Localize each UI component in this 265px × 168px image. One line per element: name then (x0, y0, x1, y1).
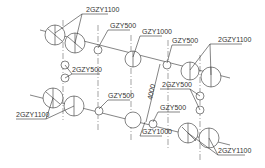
label-2gzy1100: 2GZY1100 (218, 36, 251, 43)
label-2gzy1100: 2GZY1100 (86, 6, 119, 13)
dimension-label: 4000 (146, 83, 156, 100)
label-gzy500: GZY500 (160, 104, 186, 111)
support-layout-drawing: 2GZY1100 GZY500 2GZY500 GZY1000 GZY500 2… (0, 0, 265, 168)
label-gzy1000: GZY1000 (142, 28, 172, 35)
label-2gzy500: 2GZY500 (72, 66, 102, 73)
label-gzy500: GZY500 (108, 92, 134, 99)
label-2gzy1100: 2GZY1100 (16, 111, 49, 118)
label-2gzy500: 2GZY500 (162, 81, 192, 88)
support-gzy1000 (125, 112, 141, 128)
label-gzy1000: GZY1000 (142, 128, 172, 135)
support-gzy500 (95, 107, 103, 115)
label-gzy500: GZY500 (172, 37, 198, 44)
support-gzy500 (149, 120, 157, 128)
support-gzy500 (94, 46, 102, 54)
label-gzy500: GZY500 (110, 22, 136, 29)
label-2gzy1100: 2GZY1100 (218, 147, 251, 154)
